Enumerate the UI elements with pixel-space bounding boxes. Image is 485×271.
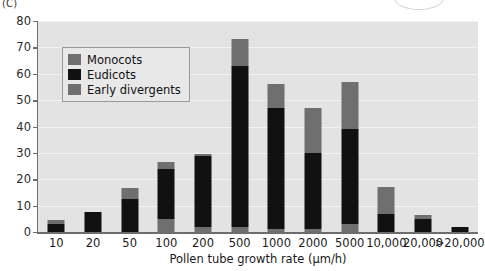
bar-segment-eudicots [85,212,102,232]
legend-swatch-icon [68,84,81,95]
x-axis-tick-label: 100 [155,236,177,250]
bar-segment-eudicots [305,153,322,229]
bar-segment-monocots [195,154,212,155]
bar-stack [268,21,285,232]
gridline [38,179,478,180]
bar-segment-monocots [305,108,322,153]
y-axis-tick-label: 30 [16,146,31,160]
y-axis-tick [33,21,38,22]
x-axis-tick-label: 2000 [298,236,327,250]
y-axis-tick [33,74,38,75]
bar-segment-monocots [48,220,65,224]
bar-segment-early-divergents [158,219,175,232]
bar-segment-eudicots [231,66,248,227]
gridline [38,21,478,22]
y-axis-tick [33,47,38,48]
bar-segment-eudicots [268,108,285,229]
bar-segment-monocots [268,84,285,108]
y-axis-tick [33,127,38,128]
bar-segment-early-divergents [268,229,285,232]
y-axis-tick [33,206,38,207]
bar-stack [451,21,468,232]
y-axis-tick-label: 0 [24,225,31,239]
y-axis-tick [33,179,38,180]
x-axis-tick-label: 10 [49,236,64,250]
bar-segment-early-divergents [231,227,248,232]
bar-segment-eudicots [158,169,175,219]
bar-segment-eudicots [341,129,358,224]
bar-stack [231,21,248,232]
bar-segment-eudicots [48,224,65,232]
bar-segment-eudicots [195,156,212,227]
x-axis-tick-label: 5000 [335,236,364,250]
bar-segment-monocots [341,82,358,129]
x-axis-tick-label: 500 [229,236,251,250]
y-axis-tick-label: 20 [16,172,31,186]
legend-item-label: Early divergents [87,83,181,97]
legend-swatch-icon [68,69,81,80]
y-axis-tick [33,153,38,154]
legend-item-label: Eudicots [87,68,136,82]
bar-stack [341,21,358,232]
bar-segment-early-divergents [341,224,358,232]
scan-artifact [394,0,444,10]
legend: MonocotsEudicotsEarly divergents [62,47,190,102]
y-axis-tick-label: 50 [16,93,31,107]
legend-item-monocots: Monocots [68,52,181,67]
y-axis-tick [33,100,38,101]
x-axis-line [37,232,478,234]
panel-label: (C) [2,0,17,9]
x-axis-tick-label: 50 [122,236,137,250]
bar-stack [305,21,322,232]
legend-swatch-icon [68,54,81,65]
y-axis-tick [33,232,38,233]
x-axis-tick-label: 200 [192,236,214,250]
legend-item-label: Monocots [87,53,142,67]
x-axis-tick-label: >20,000 [435,236,485,250]
x-axis-tick-label: 10,000 [366,236,406,250]
y-axis-tick-label: 40 [16,120,31,134]
gridline [38,153,478,154]
y-axis-tick-label: 60 [16,67,31,81]
bar-segment-monocots [415,215,432,219]
y-axis-tick-label: 10 [16,199,31,213]
gridline [38,206,478,207]
bar-segment-early-divergents [195,227,212,232]
bar-segment-monocots [378,187,395,213]
bar-segment-eudicots [415,219,432,232]
y-axis-tick-label: 70 [16,40,31,54]
x-axis-title: Pollen tube growth rate (µm/h) [38,252,478,266]
bar-stack [378,21,395,232]
bar-stack [415,21,432,232]
legend-item-early-divergents: Early divergents [68,82,181,97]
y-axis-tick-label: 80 [16,14,31,28]
bar-stack [195,21,212,232]
bar-segment-early-divergents [305,229,322,232]
gridline [38,127,478,128]
x-axis-tick-label: 1000 [262,236,291,250]
bar-segment-eudicots [378,214,395,232]
bar-segment-monocots [121,188,138,199]
bar-segment-monocots [158,162,175,169]
x-axis-tick-label: 20 [86,236,101,250]
bar-segment-monocots [231,39,248,65]
bar-segment-eudicots [121,199,138,232]
legend-item-eudicots: Eudicots [68,67,181,82]
bar-segment-eudicots [451,227,468,232]
